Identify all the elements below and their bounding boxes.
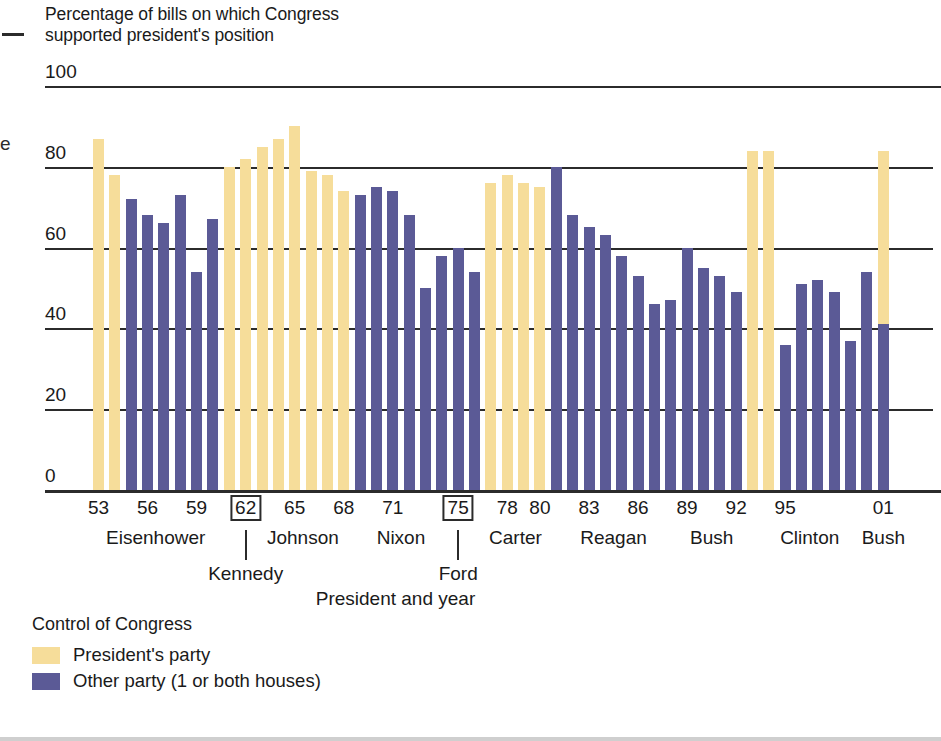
bar-segment-presidents-party	[109, 175, 120, 490]
bar-segment-presidents-party	[306, 171, 317, 490]
x-tick-label-62: 62	[230, 495, 261, 521]
president-label-johnson: Johnson	[267, 526, 339, 549]
bar-segment-other-party	[191, 272, 202, 490]
bar	[420, 288, 431, 490]
legend-label-other-party: Other party (1 or both houses)	[73, 670, 321, 692]
bar-segment-other-party	[404, 215, 415, 490]
bar	[649, 304, 660, 490]
bar-segment-presidents-party	[93, 139, 104, 490]
x-axis-caption-text: President and year	[316, 588, 476, 609]
bar-segment-other-party	[469, 272, 480, 490]
brace-stem-kennedy	[245, 530, 247, 560]
x-tick-label-95: 95	[775, 497, 796, 519]
president-label-reagan: Reagan	[580, 526, 647, 549]
x-tick-label-92: 92	[726, 497, 747, 519]
bar-segment-presidents-party	[338, 191, 349, 490]
bar	[306, 171, 317, 490]
bar	[714, 276, 725, 490]
bar	[240, 159, 251, 490]
y-tick-label-100: 100	[45, 62, 77, 81]
president-label-eisenhower: Eisenhower	[106, 526, 205, 549]
bar-segment-other-party	[551, 167, 562, 490]
legend-label-presidents-party: President's party	[73, 644, 210, 666]
president-label-bush: Bush	[690, 526, 733, 549]
bar	[93, 139, 104, 490]
x-tick-label-83: 83	[578, 497, 599, 519]
president-label-carter: Carter	[489, 526, 542, 549]
bar	[436, 256, 447, 490]
bar-segment-other-party	[567, 215, 578, 490]
president-labels: EisenhowerKennedyJohnsonNixonFordCarterR…	[0, 526, 941, 554]
bar	[273, 139, 284, 490]
bar-segment-other-party	[158, 223, 169, 490]
bar-segment-other-party	[829, 292, 840, 490]
bar-segment-presidents-party	[273, 139, 284, 490]
page-bottom-rule	[0, 737, 941, 741]
x-tick-label-68: 68	[333, 497, 354, 519]
bar-segment-presidents-party	[747, 151, 758, 490]
bar-segment-other-party	[420, 288, 431, 490]
bar-segment-other-party	[878, 324, 889, 490]
legend: Control of Congress President's party Ot…	[32, 612, 321, 694]
bar-segment-presidents-party	[289, 126, 300, 490]
legend-item-other-party: Other party (1 or both houses)	[32, 668, 321, 694]
brace-stem-ford	[457, 530, 459, 560]
bar-segment-other-party	[175, 195, 186, 490]
chart-title: Percentage of bills on which Congress su…	[45, 4, 339, 46]
president-label-clinton: Clinton	[780, 526, 839, 549]
bar-segment-other-party	[142, 215, 153, 490]
bar	[257, 147, 268, 490]
x-tick-label-80: 80	[529, 497, 550, 519]
bar-segment-presidents-party	[224, 167, 235, 490]
bar	[600, 235, 611, 490]
bar-segment-other-party	[714, 276, 725, 490]
bar	[387, 191, 398, 490]
bar	[158, 223, 169, 490]
bar	[747, 151, 758, 490]
legend-title: Control of Congress	[32, 612, 321, 636]
x-tick-label-78: 78	[497, 497, 518, 519]
bar-segment-presidents-party	[257, 147, 268, 490]
x-axis-labels: 53565962656871757880838689929501	[0, 497, 941, 527]
bar	[469, 272, 480, 490]
bar-segment-other-party	[371, 187, 382, 490]
bar-segment-other-party	[616, 256, 627, 490]
bar-segment-other-party	[698, 268, 709, 490]
bar	[616, 256, 627, 490]
bar	[126, 199, 137, 490]
bar	[845, 341, 856, 490]
bar	[829, 292, 840, 490]
bar-segment-other-party	[600, 235, 611, 490]
bar-segment-presidents-party	[763, 151, 774, 490]
bar	[338, 191, 349, 490]
x-tick-label-01: 01	[873, 497, 894, 519]
x-tick-label-86: 86	[627, 497, 648, 519]
legend-swatch-presidents-party	[32, 647, 60, 664]
x-axis-caption: President and year	[0, 588, 941, 610]
bar	[404, 215, 415, 490]
bar-segment-presidents-party	[534, 187, 545, 490]
bar-segment-presidents-party	[878, 151, 889, 325]
bar	[861, 272, 872, 490]
bar	[878, 151, 889, 490]
president-label-bush: Bush	[862, 526, 905, 549]
legend-item-presidents-party: President's party	[32, 642, 321, 668]
bar	[633, 276, 644, 490]
bar	[584, 227, 595, 490]
bar	[371, 187, 382, 490]
bar-segment-other-party	[682, 248, 693, 490]
bar	[207, 219, 218, 490]
bar-segment-other-party	[649, 304, 660, 490]
president-label-nixon: Nixon	[377, 526, 426, 549]
bar-segment-presidents-party	[322, 175, 333, 490]
bar-segment-other-party	[845, 341, 856, 490]
x-tick-label-71: 71	[382, 497, 403, 519]
bar-segment-other-party	[665, 300, 676, 490]
bar-segment-other-party	[207, 219, 218, 490]
bar	[518, 183, 529, 490]
bar-segment-other-party	[355, 195, 366, 490]
bar	[731, 292, 742, 490]
x-tick-label-59: 59	[186, 497, 207, 519]
bar	[780, 345, 791, 490]
bar-segment-presidents-party	[502, 175, 513, 490]
